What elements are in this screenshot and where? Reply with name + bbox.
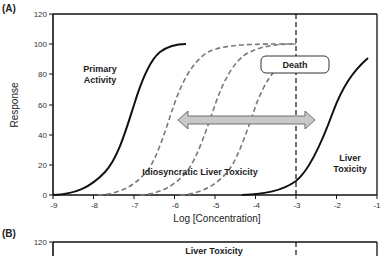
figure: (A) 0 20 40 60 80 100 120 (0, 0, 382, 256)
y-tick-label: 80 (38, 70, 47, 79)
x-tick-label: -2 (334, 201, 342, 210)
plot-b: (B) 120 Liver Toxicity (2, 228, 377, 256)
idiosyncratic-label: Idiosyncratic Liver Toxicity (142, 167, 257, 177)
plot-a: 0 20 40 60 80 100 120 -9 -8 -7 -6 -5 -4 … (9, 10, 381, 224)
plot-b-y-tick-label: 120 (34, 238, 48, 247)
plot-b-liver-toxicity-label: Liver Toxicity (185, 246, 242, 256)
death-label: Death (282, 60, 307, 70)
x-tick-label: -5 (212, 201, 220, 210)
x-tick-label: -3 (293, 201, 301, 210)
y-tick-label: 0 (43, 191, 48, 200)
x-tick-label: -4 (253, 201, 261, 210)
x-tick-label: -9 (50, 201, 58, 210)
y-ticks: 0 20 40 60 80 100 120 (34, 10, 53, 200)
panel-b-label: (B) (2, 228, 16, 239)
x-tick-label: -1 (373, 201, 381, 210)
y-tick-label: 20 (38, 161, 47, 170)
liver-toxicity-label-line1: Liver (339, 153, 361, 163)
double-arrow-icon (178, 111, 315, 129)
y-tick-label: 120 (34, 10, 48, 19)
y-tick-label: 40 (38, 131, 47, 140)
x-tick-label: -7 (131, 201, 139, 210)
y-tick-label: 60 (38, 101, 47, 110)
y-tick-label: 100 (34, 40, 48, 49)
x-tick-label: -6 (172, 201, 180, 210)
primary-activity-label-line1: Primary (83, 64, 117, 74)
x-tick-label: -8 (91, 201, 99, 210)
panel-a-label: (A) (2, 3, 16, 14)
y-axis-label: Response (9, 82, 20, 127)
x-ticks: -9 -8 -7 -6 -5 -4 -3 -2 -1 (50, 195, 381, 210)
liver-toxicity-label-line2: Toxicity (333, 164, 366, 174)
primary-activity-label-line2: Activity (84, 75, 117, 85)
x-axis-label: Log [Concentration] (173, 213, 261, 224)
